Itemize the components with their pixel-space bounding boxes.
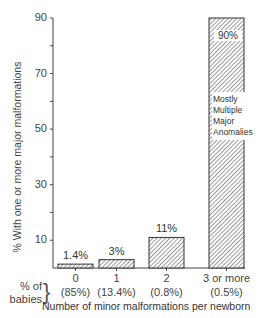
y-tick-label: 70 (25, 67, 47, 79)
y-tick-label: 10 (25, 233, 47, 245)
bar-1 (99, 260, 134, 268)
x-category-label: 2 (137, 272, 197, 284)
annotation-line: Mostly (213, 94, 263, 105)
percent-of-label: % of (6, 280, 42, 293)
x-category-label: 3 or more (197, 272, 257, 284)
y-axis-label: % With one or more major malformations (11, 57, 25, 257)
percent-of-babies-label: % of babies (6, 280, 42, 306)
annotation-line: Multiple (213, 105, 263, 116)
chart-plot (0, 0, 267, 318)
bar-value-label-3: 90% (214, 30, 242, 41)
bar-2 (149, 237, 184, 268)
bar-value-label-1: 3% (97, 245, 137, 257)
bar-value-label-2: 11% (147, 222, 187, 234)
y-tick-label: 90 (25, 11, 47, 23)
babies-label: babies (6, 293, 42, 306)
bar-3 (209, 18, 244, 268)
chart: % With one or more major malformations 1… (0, 0, 267, 318)
annotation-line: Anomalies (213, 127, 263, 138)
bar-value-label-0: 1.4% (56, 249, 96, 261)
annotation-line: Major (213, 116, 263, 127)
y-tick-label: 50 (25, 122, 47, 134)
bar-0 (58, 264, 93, 268)
percent-of-babies-value: (0.5%) (197, 286, 257, 298)
y-tick-label: 30 (25, 178, 47, 190)
annotation-note: Mostly Multiple Major Anomalies (212, 92, 264, 140)
percent-of-babies-value: (0.8%) (137, 286, 197, 298)
x-axis-label: Number of minor malformations per newbor… (42, 300, 250, 312)
